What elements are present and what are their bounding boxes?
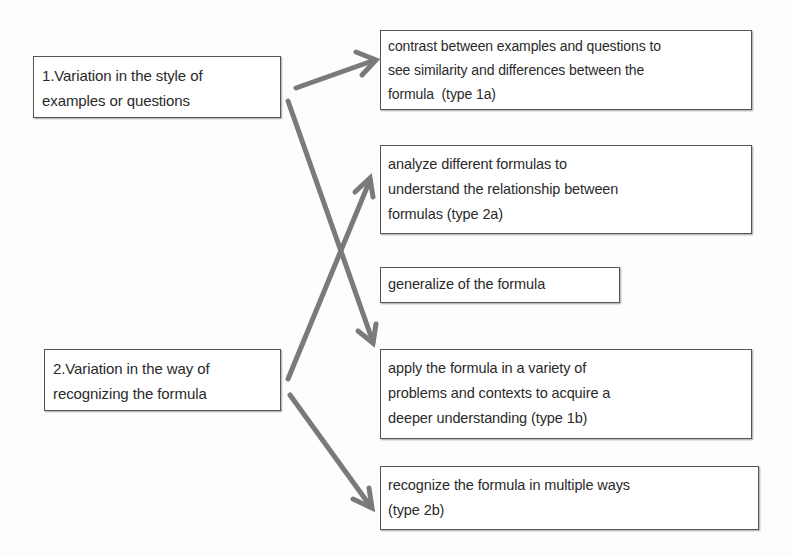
type-2a-line-2: understand the relationship between	[388, 177, 744, 202]
type-1b-line-3: deeper understanding (type 1b)	[388, 406, 744, 431]
arrow-source2-to-type2b	[290, 395, 372, 508]
target-box-type-2a: analyze different formulas to understand…	[380, 145, 752, 234]
type-1a-line-3: formula (type 1a)	[388, 82, 744, 106]
type-1a-line-1: contrast between examples and questions …	[388, 34, 744, 58]
type-1b-line-2: problems and contexts to acquire a	[388, 381, 744, 406]
type-1b-line-1: apply the formula in a variety of	[388, 356, 744, 381]
source-1-line-1: 1.Variation in the style of	[42, 63, 272, 88]
target-box-type-1a: contrast between examples and questions …	[380, 30, 752, 110]
type-2a-line-1: analyze different formulas to	[388, 152, 744, 177]
type-2a-line-3: formulas (type 2a)	[388, 202, 744, 227]
source-box-recognition-variation: 2.Variation in the way of recognizing th…	[44, 349, 281, 411]
type-2b-line-1: recognize the formula in multiple ways	[388, 473, 751, 498]
source-box-style-variation: 1.Variation in the style of examples or …	[33, 56, 281, 118]
source-2-line-1: 2.Variation in the way of	[53, 356, 272, 381]
target-box-generalize: generalize of the formula	[380, 267, 620, 303]
arrow-source2-to-type2a	[288, 178, 373, 379]
target-box-type-2b: recognize the formula in multiple ways (…	[380, 466, 759, 530]
source-1-line-2: examples or questions	[42, 88, 272, 113]
generalize-line-1: generalize of the formula	[388, 272, 612, 297]
type-1a-line-2: see similarity and differences between t…	[388, 58, 744, 82]
type-2b-line-2: (type 2b)	[388, 498, 751, 523]
arrow-source1-to-type1b	[288, 101, 376, 343]
arrow-source1-to-type1a	[296, 52, 376, 88]
target-box-type-1b: apply the formula in a variety of proble…	[380, 349, 752, 439]
source-2-line-2: recognizing the formula	[53, 381, 272, 406]
